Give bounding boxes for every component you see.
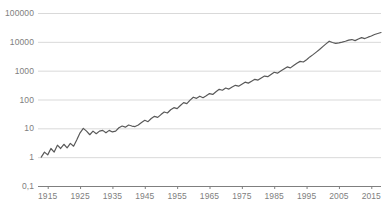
y-axis-tick-label: 1: [29, 152, 34, 162]
y-axis-tick-label: 10000: [10, 37, 34, 47]
x-axis-tick-label: 1935: [103, 191, 122, 201]
y-axis-tick-label: 100: [20, 95, 34, 105]
x-axis-tick-label: 2015: [362, 191, 381, 201]
x-axis-tick-label: 1965: [200, 191, 219, 201]
y-axis-tick-label: 1000: [15, 66, 34, 76]
y-axis-tick-label: 10: [24, 123, 34, 133]
y-axis-tick-label: 0,1: [22, 181, 34, 191]
x-axis-tick-label: 1975: [232, 191, 251, 201]
data-series-line: [41, 33, 381, 158]
x-axis-tick-label: 1985: [265, 191, 284, 201]
x-axis-tick-label: 1915: [38, 191, 57, 201]
x-axis-tick-label: 1995: [297, 191, 316, 201]
y-axis-tick-label: 100000: [5, 8, 34, 18]
series-line: [41, 33, 381, 158]
x-axis-tick-label: 1925: [70, 191, 89, 201]
gridlines: [38, 14, 381, 187]
chart-plot-area: [0, 0, 388, 219]
x-axis-tick-label: 1945: [135, 191, 154, 201]
log-line-chart: 1000001000010001001010,1 191519251935194…: [0, 0, 388, 219]
x-axis-tick-label: 2005: [329, 191, 348, 201]
x-axis-tick-label: 1955: [167, 191, 186, 201]
